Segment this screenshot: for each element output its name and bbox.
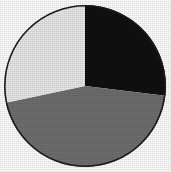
pie-slice-light-gray	[4, 5, 85, 103]
pie-chart-svg	[0, 0, 171, 172]
pie-slice-medium-gray	[6, 86, 166, 167]
pie-slice-black	[85, 5, 166, 96]
pie-chart-figure	[0, 0, 171, 172]
